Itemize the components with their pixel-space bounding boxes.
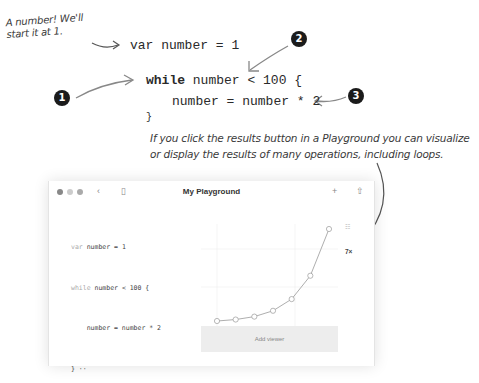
data-point (270, 308, 275, 313)
data-point (308, 273, 313, 278)
caption: If you click the results button in a Pla… (150, 130, 479, 162)
while-condition: number < 100 { (185, 73, 302, 88)
playground-window: ‹ ▯ My Playground + ⇧ var number = 1 whi… (48, 181, 375, 366)
data-point (326, 226, 331, 231)
data-point (252, 314, 257, 319)
data-point (214, 318, 219, 323)
code-editor[interactable]: var number = 1 while number < 100 { numb… (71, 214, 161, 383)
editor-line: while number < 100 { (71, 282, 161, 296)
code-line-close: } (146, 112, 152, 123)
badge-1: 1 (54, 90, 70, 106)
data-point (289, 296, 294, 301)
add-viewer-button[interactable]: Add viewer (201, 326, 338, 352)
editor-line: number = number * 2 (71, 322, 161, 336)
results-button[interactable]: 7× (345, 248, 352, 255)
results-chart (201, 224, 338, 326)
window-title: My Playground (49, 187, 374, 196)
loop-graph (201, 224, 338, 326)
code-line-body: number = number * 2 (172, 94, 320, 109)
editor-line: } ·· (71, 363, 161, 377)
data-point (233, 317, 238, 322)
add-icon[interactable]: + (332, 186, 337, 196)
code-line-var: var number = 1 (130, 38, 239, 53)
badge-2: 2 (291, 31, 307, 47)
editor-line: var number = 1 (71, 241, 161, 255)
titlebar: ‹ ▯ My Playground + ⇧ (49, 181, 374, 203)
keyword-while: while (146, 73, 185, 88)
code-line-while: while number < 100 { (146, 73, 302, 88)
share-icon[interactable]: ⇧ (356, 186, 364, 196)
badge-3: 3 (348, 88, 364, 104)
viewer-mode-icon[interactable]: ☷ (345, 223, 350, 230)
